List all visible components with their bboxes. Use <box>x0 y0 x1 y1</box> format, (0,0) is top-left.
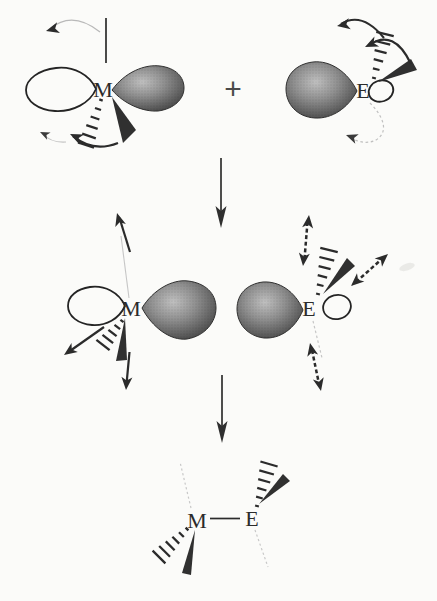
filled-orbital-lobe <box>142 281 216 339</box>
atom-label-main-group: E <box>356 78 369 103</box>
atom-label-metal: M <box>93 77 113 102</box>
intermediate-metal-fragment: M <box>61 211 216 390</box>
empty-orbital-lobe <box>68 287 125 325</box>
intermediate-main-group-fragment: E <box>237 214 416 392</box>
vibration-arrow-diagonal <box>347 250 391 290</box>
filled-orbital-lobe <box>112 66 184 111</box>
axis-dotted-line-metal <box>180 462 191 508</box>
hashed-wedge-bond-metal <box>153 528 189 564</box>
reactant-metal-fragment: M <box>26 18 184 148</box>
empty-orbital-loop <box>320 292 353 322</box>
rotation-arrow-top-inner <box>363 37 411 64</box>
vibration-arrow-vertical-top <box>298 214 315 266</box>
hashed-wedge-bond <box>78 99 103 147</box>
solid-wedge-bond <box>116 318 127 361</box>
reactant-main-group-fragment: E <box>286 18 417 143</box>
rotation-arrow-top <box>45 20 100 36</box>
vibration-arrow-vertical-bottom <box>305 342 327 392</box>
reaction-scheme-figure: M + E <box>0 0 437 601</box>
plus-sign: + <box>224 72 242 105</box>
motion-arrow-down-left <box>61 327 104 360</box>
axis-dotted-line-main-group <box>255 530 268 567</box>
hashed-wedge-bond-main-group <box>255 462 278 507</box>
filled-orbital-lobe <box>286 62 357 118</box>
atom-label-metal: M <box>187 508 207 533</box>
product-structure: M E <box>153 462 290 576</box>
paper-artifact <box>398 261 415 273</box>
hashed-wedge-bond <box>316 248 338 295</box>
atom-label-metal: M <box>121 296 141 321</box>
empty-orbital-loop <box>366 77 396 105</box>
reaction-arrow-2 <box>217 375 228 443</box>
empty-orbital-lobe <box>26 68 96 111</box>
filled-orbital-lobe <box>237 282 303 338</box>
atom-label-main-group: E <box>245 506 258 531</box>
reaction-arrow-1 <box>216 158 227 228</box>
rotation-arrow-top-outer <box>336 18 384 38</box>
motion-arrow-up <box>112 211 130 252</box>
atom-label-main-group: E <box>302 296 315 321</box>
rotation-arrow-bottom-faint <box>38 128 66 142</box>
rotation-arrow-bottom <box>344 103 383 144</box>
solid-wedge-bond <box>323 258 355 294</box>
